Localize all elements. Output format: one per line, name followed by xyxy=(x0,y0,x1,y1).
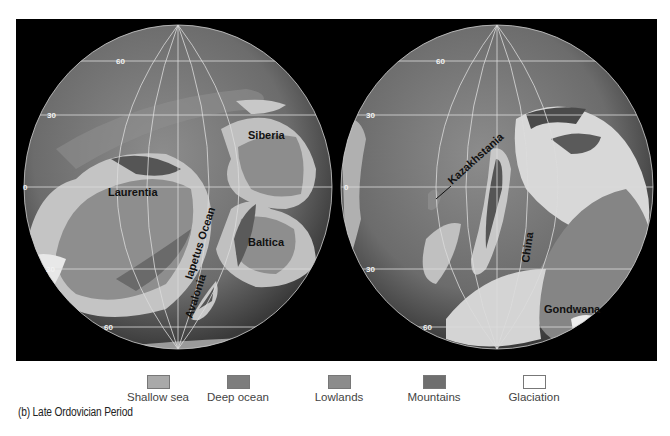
left-globe: 60 30 0 30 60 Siberia Laurentia Baltica … xyxy=(16,25,346,351)
label-baltica: Baltica xyxy=(248,236,285,248)
lat-label-equator-right: 0 xyxy=(344,183,349,192)
globes-illustration: 60 30 0 30 60 Siberia Laurentia Baltica … xyxy=(16,19,657,361)
lat-label-60s: 60 xyxy=(104,323,113,332)
lat-label-30s-right: 30 xyxy=(366,265,375,274)
legend-label: Deep ocean xyxy=(188,391,288,403)
map-legend: Shallow sea Deep ocean Lowlands Mountain… xyxy=(0,375,670,407)
figure-caption: (b) Late Ordovician Period xyxy=(18,405,133,419)
globe-map-frame: 60 30 0 30 60 Siberia Laurentia Baltica … xyxy=(16,19,657,361)
lat-label-equator: 0 xyxy=(23,183,28,192)
lat-label-60n-right: 60 xyxy=(436,57,445,66)
mountains-swatch-icon xyxy=(423,375,446,389)
lat-label-60s-right: 60 xyxy=(423,323,432,332)
legend-item-glaciation: Glaciation xyxy=(484,375,584,403)
lat-label-60n: 60 xyxy=(116,57,125,66)
lat-label-30n-right: 30 xyxy=(366,111,375,120)
legend-label: Glaciation xyxy=(484,391,584,403)
legend-label: Lowlands xyxy=(289,391,389,403)
legend-item-mountains: Mountains xyxy=(384,375,484,403)
label-laurentia: Laurentia xyxy=(108,186,158,198)
shallow-sea-swatch-icon xyxy=(147,375,170,389)
legend-label: Mountains xyxy=(384,391,484,403)
lat-label-30n: 30 xyxy=(47,111,56,120)
label-gondwana: Gondwana xyxy=(544,303,601,315)
glaciation-swatch-icon xyxy=(523,375,546,389)
label-siberia: Siberia xyxy=(248,129,286,141)
deep-ocean-swatch-icon xyxy=(227,375,250,389)
legend-item-lowlands: Lowlands xyxy=(289,375,389,403)
legend-item-deep-ocean: Deep ocean xyxy=(188,375,288,403)
lowlands-swatch-icon xyxy=(328,375,351,389)
lat-label-30s: 30 xyxy=(46,265,55,274)
right-globe: 60 30 0 30 60 Kazakhstania China Gondwan… xyxy=(336,25,656,349)
